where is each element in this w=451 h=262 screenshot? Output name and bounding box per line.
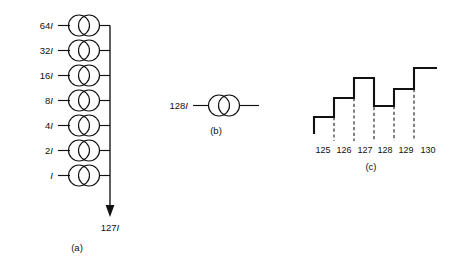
source-label-128i: 128I xyxy=(170,100,189,111)
source-label-4i: 4I xyxy=(45,120,53,131)
caption-a: (a) xyxy=(71,242,83,253)
source-label-32i: 32I xyxy=(40,45,54,56)
caption-c: (c) xyxy=(365,161,376,172)
tick-label-125: 125 xyxy=(315,145,330,155)
output-current-label: 127I xyxy=(101,222,120,233)
caption-b: (b) xyxy=(210,125,222,136)
tick-label-127: 127 xyxy=(357,145,372,155)
figure-background xyxy=(0,0,451,262)
tick-label-129: 129 xyxy=(398,145,413,155)
tick-label-126: 126 xyxy=(336,145,351,155)
tick-label-130: 130 xyxy=(420,145,435,155)
source-label-2i: 2I xyxy=(45,145,53,156)
source-label-16i: 16I xyxy=(40,70,54,81)
source-label-64i: 64I xyxy=(40,20,54,31)
source-label-1i: I xyxy=(50,170,53,181)
source-label-8i: 8I xyxy=(45,95,53,106)
tick-label-128: 128 xyxy=(377,145,392,155)
dac-current-source-figure: 64I 32I 16I 8I xyxy=(0,0,451,262)
